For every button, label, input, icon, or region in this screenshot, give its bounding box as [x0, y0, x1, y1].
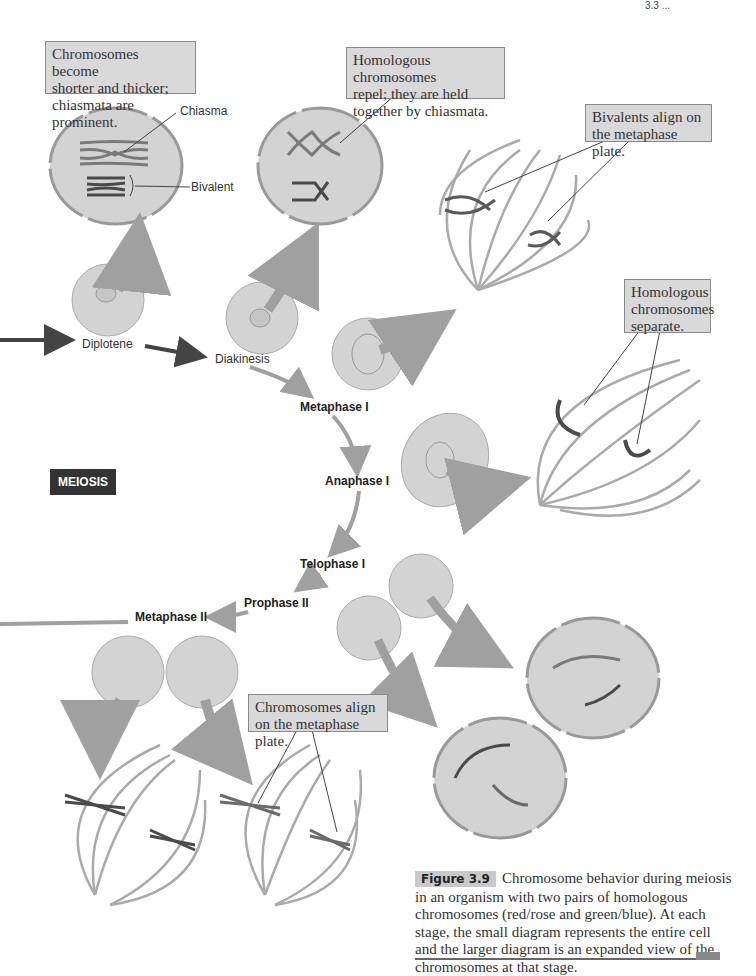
stage-prophase2: Prophase II — [244, 596, 309, 610]
telophase1-cells — [434, 618, 659, 838]
callout-diakinesis: Homologous chromosomes repel; they are h… — [346, 47, 505, 99]
caption-rule-box — [696, 952, 720, 960]
diplotene-small-cell — [72, 232, 144, 336]
stage-metaphase2: Metaphase II — [135, 610, 207, 624]
anaphase1-spindle — [538, 360, 700, 516]
metaphase1-spindle — [440, 140, 589, 290]
label-bivalent: Bivalent — [191, 180, 234, 194]
callout-diplotene: Chromosomes become shorter and thicker; … — [45, 41, 196, 94]
metaphase2-spindles — [78, 745, 361, 905]
callout-metaphase1: Bivalents align on the metaphase plate. — [585, 104, 712, 142]
diakinesis-small-cell — [226, 240, 310, 354]
figure-tag: Figure 3.9 — [415, 871, 496, 887]
page-header: 3.3 ... — [645, 0, 670, 11]
caption-rule — [415, 958, 720, 960]
label-chiasma: Chiasma — [180, 104, 227, 118]
meiosis-badge: MEIOSIS — [50, 469, 116, 495]
callout-metaphase2: Chromosomes align on the metaphase plate… — [248, 694, 388, 732]
figure-caption: Figure 3.9Chromosome behavior during mei… — [415, 870, 733, 976]
stage-metaphase1: Metaphase I — [300, 400, 369, 414]
stage-diakinesis: Diakinesis — [215, 352, 270, 366]
stage-diplotene: Diplotene — [82, 337, 133, 351]
stage-anaphase1: Anaphase I — [325, 474, 389, 488]
callout-anaphase1: Homologous chromosomes separate. — [624, 279, 711, 333]
stage-telophase1: Telophase I — [300, 557, 365, 571]
